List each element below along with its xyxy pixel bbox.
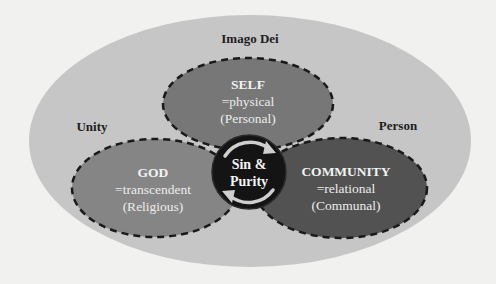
god-title: GOD — [138, 165, 169, 180]
venn-diagram: Imago Dei Unity Person SELF =physical (P… — [0, 0, 496, 284]
god-subtitle: =transcendent — [115, 182, 191, 197]
self-category: (Personal) — [220, 111, 275, 126]
imago-dei-label: Imago Dei — [221, 31, 279, 46]
center-line1: Sin & — [232, 157, 267, 172]
center-line2: Purity — [230, 174, 268, 189]
unity-label: Unity — [76, 119, 108, 134]
community-category: (Communal) — [312, 198, 381, 213]
self-title: SELF — [231, 77, 265, 92]
sin-purity-circle — [212, 135, 286, 209]
person-label: Person — [379, 118, 418, 133]
community-title: COMMUNITY — [301, 164, 390, 179]
god-category: (Religious) — [123, 199, 184, 214]
self-subtitle: =physical — [222, 94, 275, 109]
community-subtitle: =relational — [317, 181, 376, 196]
